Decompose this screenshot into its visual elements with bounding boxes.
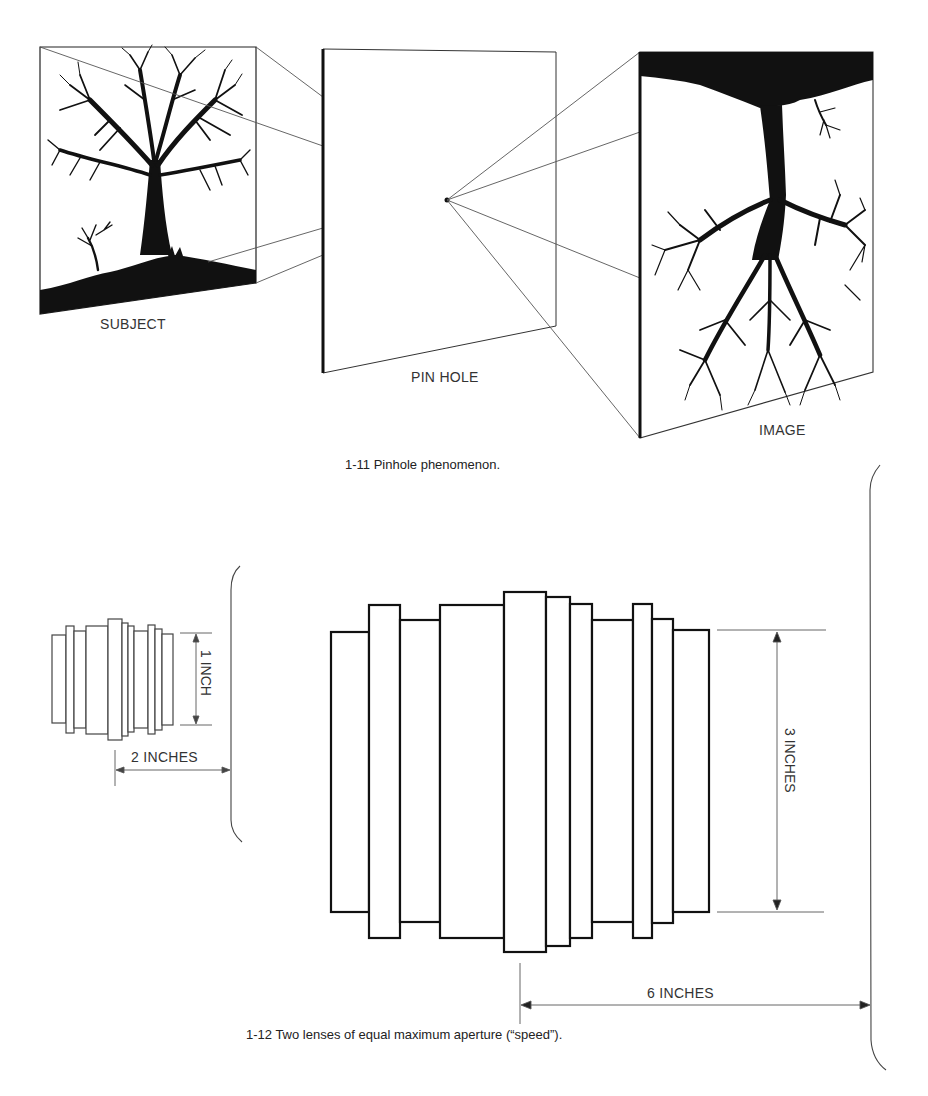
figure-lenses [52,465,886,1070]
figure-1-12-caption: 1-12 Two lenses of equal maximum apertur… [246,1027,562,1042]
large-lens-length-label: 6 INCHES [647,985,714,1001]
subject-label: SUBJECT [100,316,166,332]
pinhole-label: PIN HOLE [411,369,479,385]
large-lens [331,592,709,952]
large-bracket [870,465,886,1070]
image-panel [640,52,873,438]
figure-1-11-caption: 1-11 Pinhole phenomenon. [345,457,500,472]
small-lens-length-label: 2 INCHES [131,749,198,765]
small-lens-height-label: 1 INCH [198,650,214,696]
diagram-canvas [0,0,928,1096]
pinhole-panel [323,49,556,373]
subject-panel [40,45,256,314]
small-bracket [231,566,242,842]
small-lens [52,619,173,740]
large-lens-height-label: 3 INCHES [782,728,798,793]
image-label: IMAGE [759,422,806,438]
